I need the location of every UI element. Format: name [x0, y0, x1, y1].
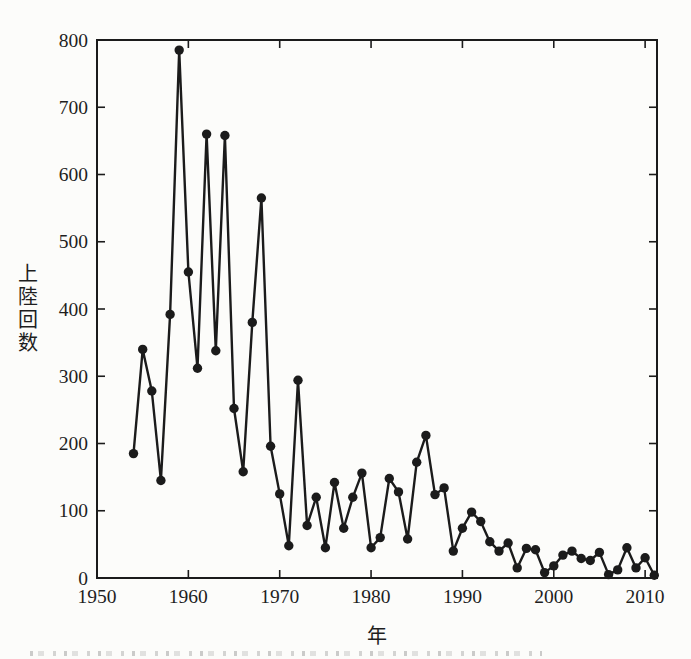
data-point — [577, 554, 586, 563]
svg-text:400: 400 — [59, 299, 88, 320]
data-point — [376, 533, 385, 542]
svg-text:0: 0 — [78, 568, 88, 589]
data-point — [640, 553, 649, 562]
svg-text:1980: 1980 — [352, 586, 391, 607]
data-point — [586, 556, 595, 565]
y-tick-labels: 0100200300400500600700800 — [59, 30, 88, 589]
caption-cropped-text — [30, 651, 542, 656]
data-point — [165, 310, 174, 319]
svg-text:1950: 1950 — [78, 586, 117, 607]
data-point — [503, 538, 512, 547]
data-point — [366, 543, 375, 552]
y-axis-title: 上陸回数 — [14, 40, 40, 578]
data-point — [604, 570, 613, 579]
data-point — [275, 489, 284, 498]
data-point — [184, 267, 193, 276]
data-point — [613, 565, 622, 574]
svg-text:1990: 1990 — [443, 586, 482, 607]
data-point — [293, 376, 302, 385]
svg-text:2000: 2000 — [534, 586, 573, 607]
data-point — [302, 521, 311, 530]
x-axis-title: 年 — [97, 620, 657, 649]
svg-text:300: 300 — [59, 366, 88, 387]
data-point — [567, 546, 576, 555]
data-point — [458, 524, 467, 533]
landing-frequency-figure: 1950196019701980199020002010010020030040… — [0, 0, 691, 659]
data-point — [202, 129, 211, 138]
data-point — [485, 537, 494, 546]
data-point — [220, 131, 229, 140]
data-points — [129, 45, 659, 580]
data-point — [622, 543, 631, 552]
svg-text:600: 600 — [59, 164, 88, 185]
data-point — [430, 490, 439, 499]
data-point — [357, 468, 366, 477]
data-point — [403, 534, 412, 543]
data-point — [540, 568, 549, 577]
data-point — [522, 544, 531, 553]
data-point — [421, 431, 430, 440]
data-point — [284, 541, 293, 550]
data-point — [229, 404, 238, 413]
landing-count-chart: 1950196019701980199020002010010020030040… — [0, 0, 691, 659]
data-point — [494, 546, 503, 555]
data-point — [156, 476, 165, 485]
data-point — [339, 524, 348, 533]
data-point — [650, 571, 659, 580]
data-point — [348, 493, 357, 502]
data-point — [129, 449, 138, 458]
data-point — [175, 45, 184, 54]
data-line — [134, 50, 655, 575]
data-point — [558, 550, 567, 559]
x-tick-labels: 1950196019701980199020002010 — [78, 586, 665, 607]
data-point — [330, 478, 339, 487]
data-point — [147, 386, 156, 395]
data-point — [549, 561, 558, 570]
data-point — [476, 517, 485, 526]
svg-text:800: 800 — [59, 30, 88, 51]
svg-text:500: 500 — [59, 231, 88, 252]
data-point — [412, 458, 421, 467]
svg-text:1960: 1960 — [169, 586, 208, 607]
svg-text:700: 700 — [59, 97, 88, 118]
data-point — [211, 346, 220, 355]
data-point — [513, 563, 522, 572]
data-point — [266, 442, 275, 451]
svg-text:2010: 2010 — [626, 586, 665, 607]
svg-text:1970: 1970 — [260, 586, 299, 607]
data-point — [248, 318, 257, 327]
data-point — [193, 364, 202, 373]
data-point — [631, 563, 640, 572]
data-point — [385, 474, 394, 483]
data-point — [595, 548, 604, 557]
data-point — [257, 193, 266, 202]
data-point — [439, 483, 448, 492]
data-point — [321, 543, 330, 552]
data-point — [312, 493, 321, 502]
data-point — [138, 345, 147, 354]
data-point — [394, 487, 403, 496]
data-point — [467, 507, 476, 516]
data-point — [449, 546, 458, 555]
data-point — [239, 467, 248, 476]
svg-text:100: 100 — [59, 500, 88, 521]
x-axis-ticks — [97, 40, 645, 578]
svg-text:200: 200 — [59, 433, 88, 454]
data-point — [531, 545, 540, 554]
